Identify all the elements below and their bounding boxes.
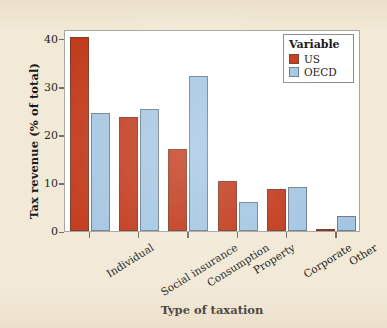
x-tick-mark bbox=[335, 232, 336, 238]
bar-us-property bbox=[218, 181, 237, 232]
legend-item-us: US bbox=[289, 53, 348, 65]
x-tick-mark bbox=[138, 232, 139, 238]
bar-oecd-social-insurance bbox=[140, 109, 159, 231]
bar-oecd-property bbox=[239, 202, 258, 231]
bar-oecd-other bbox=[337, 216, 356, 231]
y-tick-label: 10 bbox=[28, 177, 58, 190]
y-tick-mark bbox=[59, 135, 64, 136]
legend: Variable US OECD bbox=[283, 34, 354, 83]
legend-item-oecd: OECD bbox=[289, 66, 348, 78]
legend-label-oecd: OECD bbox=[304, 66, 337, 78]
bar-us-corporate bbox=[267, 189, 286, 231]
x-tick-label: Individual bbox=[104, 241, 156, 279]
bar-us-social-insurance bbox=[119, 117, 138, 231]
y-tick-mark bbox=[59, 232, 64, 233]
y-tick-label: 20 bbox=[28, 129, 58, 142]
bar-us-other bbox=[316, 229, 335, 231]
x-tick-label: Corporate bbox=[301, 241, 353, 280]
y-tick-label: 40 bbox=[28, 33, 58, 46]
bar-oecd-individual bbox=[91, 113, 110, 231]
bar-us-individual bbox=[70, 37, 89, 231]
legend-title: Variable bbox=[289, 38, 348, 51]
legend-swatch-us bbox=[289, 54, 299, 64]
x-tick-mark bbox=[286, 232, 287, 238]
legend-swatch-oecd bbox=[289, 67, 299, 77]
y-tick-mark bbox=[59, 183, 64, 184]
legend-label-us: US bbox=[304, 53, 320, 65]
y-tick-mark bbox=[59, 87, 64, 88]
y-tick-label: 0 bbox=[28, 225, 58, 238]
x-axis-title: Type of taxation bbox=[64, 303, 360, 317]
bar-oecd-consumption bbox=[189, 76, 208, 231]
x-tick-mark bbox=[89, 232, 90, 238]
bar-us-consumption bbox=[168, 149, 187, 231]
x-tick-label: Other bbox=[347, 241, 380, 268]
bar-chart: Tax revenue (% of total) Variable US OEC… bbox=[0, 0, 387, 328]
y-tick-label: 30 bbox=[28, 81, 58, 94]
bar-oecd-corporate bbox=[288, 187, 307, 231]
y-tick-mark bbox=[59, 39, 64, 40]
x-tick-mark bbox=[187, 232, 188, 238]
x-tick-mark bbox=[237, 232, 238, 238]
